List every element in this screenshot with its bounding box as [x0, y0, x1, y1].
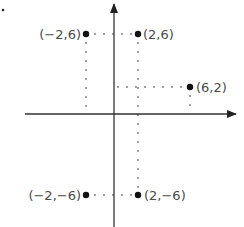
label-2-neg6: (2,−6) [144, 188, 186, 203]
point-6-2 [187, 84, 193, 90]
stray-dot [2, 9, 5, 12]
point-neg2-neg6 [83, 192, 89, 198]
label-neg2-6: (−2,6) [39, 27, 81, 42]
point-neg2-6 [83, 31, 89, 37]
label-2-6: (2,6) [143, 27, 174, 42]
label-6-2: (6,2) [196, 80, 227, 95]
point-2-6 [135, 31, 141, 37]
coordinate-plane: (−2,6) (2,6) (6,2) (−2,−6) (2,−6) [0, 0, 244, 227]
point-2-neg6 [135, 192, 141, 198]
label-neg2-neg6: (−2,−6) [28, 188, 81, 203]
